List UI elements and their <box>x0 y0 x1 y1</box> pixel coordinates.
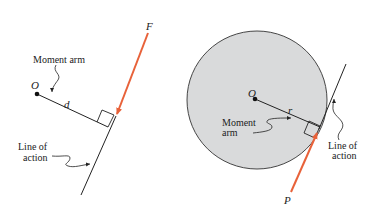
line-of-action-callout <box>333 99 343 140</box>
radius-label-r: r <box>288 104 293 116</box>
line-of-action-callout <box>52 156 90 167</box>
left-figure: F O d Moment arm Line of action <box>18 20 153 195</box>
pivot-point-o <box>35 92 40 97</box>
moment-arm-label: Moment arm <box>33 54 85 65</box>
right-angle-marker <box>97 110 114 127</box>
point-label-o: O <box>248 87 256 99</box>
line-of-action-label-1: Line of <box>18 141 48 152</box>
moment-arm-callout <box>52 65 59 92</box>
distance-label-d: d <box>64 98 70 110</box>
point-label-o: O <box>31 79 39 91</box>
force-label-f: F <box>145 20 153 32</box>
force-arrow-f <box>117 33 148 114</box>
line-of-action-label-2: action <box>332 150 356 161</box>
moment-arm-label-2: arm <box>222 127 238 138</box>
force-label-p: P <box>283 194 291 206</box>
line-of-action <box>81 116 116 195</box>
line-of-action-label-2: action <box>23 152 47 163</box>
moment-arm-diagram: F O d Moment arm Line of action O r Mome… <box>0 0 373 220</box>
right-figure: O r Moment arm Line of action P <box>187 31 358 206</box>
